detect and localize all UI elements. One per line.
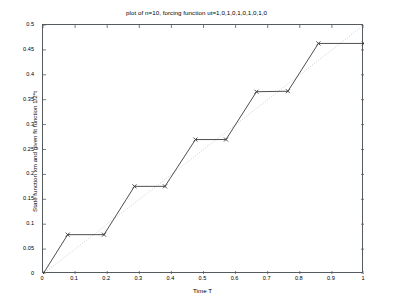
plot-svg (43, 25, 364, 274)
x-tick-label: 0.5 (199, 275, 207, 282)
fit-function-line (43, 25, 364, 274)
x-tick-label: 0.2 (102, 275, 110, 282)
plot-area (42, 24, 363, 273)
x-tick-label: 1 (361, 275, 364, 282)
x-tick-label: 0.6 (231, 275, 239, 282)
x-tick-label: 0.8 (295, 275, 303, 282)
x-tick-label: 0.7 (263, 275, 271, 282)
y-axis-title: State function xm and given fit function… (31, 32, 38, 272)
x-tick-label: 0.3 (134, 275, 142, 282)
x-tick-label: 0 (40, 275, 43, 282)
figure-canvas: plot of n=10, forcing function ut=1,0,1,… (0, 0, 393, 308)
x-tick-label: 0.9 (327, 275, 335, 282)
chart-title: plot of n=10, forcing function ut=1,0,1,… (0, 9, 393, 16)
x-axis-title: Time T (42, 287, 363, 294)
x-tick-label: 0.4 (167, 275, 175, 282)
y-tick-label: 0.5 (26, 21, 34, 27)
x-axis-tick-labels: 0 0.1 0.2 0.3 0.4 0.5 0.6 0.7 0.8 0.9 1 (42, 275, 363, 287)
x-tick-label: 0.1 (70, 275, 78, 282)
state-function-line (43, 43, 364, 274)
state-function-markers (43, 41, 364, 274)
